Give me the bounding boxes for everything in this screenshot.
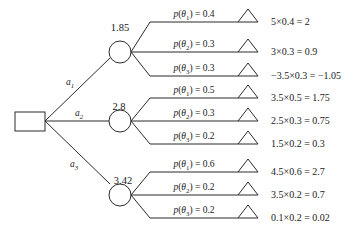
payoff-label-1-2: 3×0.3 = 0.9: [271, 46, 317, 57]
terminal-node-triangle-3-3[interactable]: [238, 205, 258, 218]
probability-label-1-1: p(θ1) = 0.4: [172, 9, 214, 21]
outcome-branch-line-3-3[interactable]: [131, 195, 150, 218]
chance-node-circle-2[interactable]: [109, 110, 131, 132]
probability-label-2-2: p(θ2) = 0.3: [172, 108, 214, 120]
decision-tree-svg: 1.85 a1 p(θ1) = 0.4 p(θ2) = 0.3 p(θ3) = …: [0, 0, 363, 231]
terminal-node-triangle-1-3[interactable]: [238, 63, 258, 76]
probability-label-1-2: p(θ2) = 0.3: [172, 39, 214, 51]
outcome-branch-line-2-3[interactable]: [131, 121, 150, 144]
payoff-label-3-1: 4.5×0.6 = 2.7: [271, 166, 325, 177]
chance-node-circle-1[interactable]: [109, 41, 131, 63]
expected-value-3: 3.42: [114, 175, 132, 186]
outcome-branch-line-3-1[interactable]: [131, 172, 150, 195]
probability-label-3-1: p(θ1) = 0.6: [172, 159, 214, 171]
probability-label-3-2: p(θ2) = 0.2: [172, 182, 214, 194]
chance-node-circle-3[interactable]: [109, 184, 131, 206]
payoff-label-2-1: 3.5×0.5 = 1.75: [271, 92, 330, 103]
terminal-node-triangle-2-3[interactable]: [238, 131, 258, 144]
action-label-2: a2: [75, 108, 84, 120]
outcome-branch-line-2-1[interactable]: [131, 98, 150, 121]
payoff-label-3-3: 0.1×0.2 = 0.02: [271, 212, 330, 223]
action-branch-line-3[interactable]: [45, 121, 110, 184]
payoff-label-1-1: 5×0.4 = 2: [271, 16, 310, 27]
payoff-label-3-2: 3.5×0.2 = 0.7: [271, 189, 325, 200]
outcome-branch-line-1-3[interactable]: [131, 52, 150, 76]
payoff-label-2-2: 2.5×0.3 = 0.75: [271, 115, 330, 126]
probability-label-3-3: p(θ3) = 0.2: [172, 205, 214, 217]
terminal-node-triangle-3-2[interactable]: [238, 182, 258, 195]
terminal-node-triangle-1-1[interactable]: [238, 9, 258, 22]
terminal-node-triangle-2-2[interactable]: [238, 108, 258, 121]
terminal-node-triangle-2-1[interactable]: [238, 85, 258, 98]
decision-node-rectangle[interactable]: [15, 112, 45, 131]
expected-value-1: 1.85: [111, 22, 129, 33]
probability-label-1-3: p(θ3) = 0.3: [172, 63, 214, 75]
terminal-node-triangle-1-2[interactable]: [238, 39, 258, 52]
terminal-node-triangle-3-1[interactable]: [238, 159, 258, 172]
action-label-3: a3: [70, 159, 79, 171]
expected-value-2: 2.8: [112, 101, 125, 112]
action-label-1: a1: [66, 77, 74, 89]
probability-label-2-3: p(θ3) = 0.2: [172, 131, 214, 143]
outcome-branch-line-1-1[interactable]: [131, 22, 150, 52]
decision-tree-figure: 1.85 a1 p(θ1) = 0.4 p(θ2) = 0.3 p(θ3) = …: [0, 0, 363, 231]
payoff-label-1-3: −3.5×0.3 = −1.05: [271, 70, 341, 81]
payoff-label-2-3: 1.5×0.2 = 0.3: [271, 138, 325, 149]
probability-label-2-1: p(θ1) = 0.5: [172, 85, 214, 97]
